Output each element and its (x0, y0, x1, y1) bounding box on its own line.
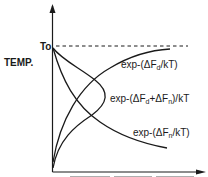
curve-fn-label: exp-(ΔFn/kT) (133, 127, 190, 139)
curve-sum-label: exp-(ΔFd+ΔFn)/kT (110, 93, 189, 105)
curve-sum (53, 48, 105, 168)
y-axis-arrow-icon (50, 4, 56, 13)
x-axis (53, 170, 207, 175)
x-axis-label-truncated (70, 176, 194, 177)
to-label: To (40, 41, 51, 52)
curve-fd-label: exp-(ΔFd/kT) (121, 59, 178, 71)
y-axis (50, 4, 56, 172)
diagram-canvas: To TEMP. exp-(ΔFd/kT) exp-(ΔFd+ΔFn)/kT e… (0, 0, 208, 177)
x-axis-arrow-icon (196, 170, 206, 175)
y-axis-label: TEMP. (4, 57, 33, 68)
